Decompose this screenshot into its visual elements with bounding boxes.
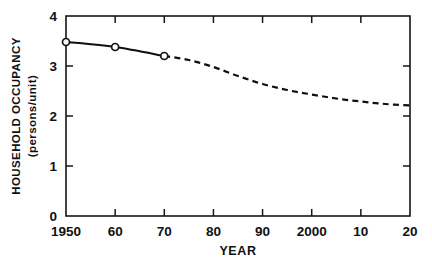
data-point-marker xyxy=(63,39,70,46)
x-tick-label: 70 xyxy=(157,224,172,239)
y-tick-label: 4 xyxy=(49,9,57,24)
y-tick-label: 0 xyxy=(49,209,57,224)
x-tick-label: 10 xyxy=(353,224,368,239)
x-tick-label: 80 xyxy=(206,224,221,239)
x-tick-label: 20 xyxy=(402,224,417,239)
y-tick-label: 2 xyxy=(49,109,57,124)
y-axis-title-line2: (persons/unit) xyxy=(26,75,38,157)
chart-figure: 01234 19506070809020001020 YEAR HOUSEHOL… xyxy=(0,0,432,267)
x-tick-label: 1950 xyxy=(51,224,81,239)
y-tick-label: 3 xyxy=(49,59,57,74)
data-point-marker xyxy=(161,53,168,60)
x-tick-label: 2000 xyxy=(297,224,327,239)
x-tick-label: 60 xyxy=(108,224,123,239)
y-tick-label: 1 xyxy=(49,159,57,174)
x-tick-label: 90 xyxy=(255,224,270,239)
household-occupancy-line-chart: 01234 19506070809020001020 YEAR HOUSEHOL… xyxy=(0,0,432,267)
x-axis-title: YEAR xyxy=(219,244,256,258)
y-axis-title-line1: HOUSEHOLD OCCUPANCY xyxy=(10,37,22,195)
data-point-marker xyxy=(112,44,119,51)
